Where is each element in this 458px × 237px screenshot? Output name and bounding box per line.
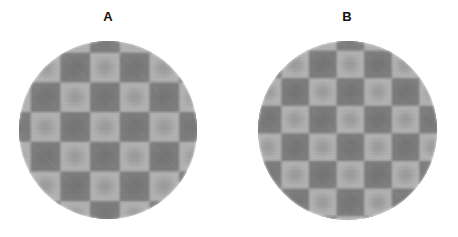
checker-blur-b	[258, 41, 437, 220]
panel-b: B	[229, 0, 458, 237]
checkerboard-pattern-b	[258, 41, 437, 220]
panel-a: A	[0, 0, 229, 237]
checker-blur-a	[19, 41, 197, 219]
stimulus-disc-a	[19, 41, 197, 219]
panel-b-label: B	[233, 10, 458, 24]
figure-root: A B	[0, 0, 458, 237]
panel-a-label: A	[0, 10, 223, 24]
checkerboard-pattern-a	[19, 41, 197, 219]
stimulus-disc-b	[258, 41, 437, 220]
